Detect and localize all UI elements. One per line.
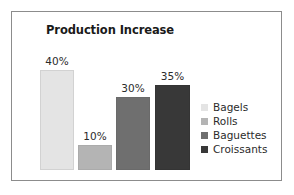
legend-item-baguettes[interactable]: Baguettes — [201, 128, 281, 142]
legend-swatch-baguettes — [201, 132, 208, 139]
bar-bagels[interactable] — [40, 70, 74, 170]
legend-item-rolls[interactable]: Rolls — [201, 114, 281, 128]
bar-value-label-baguettes: 30% — [116, 82, 150, 94]
bar-value-label-croissants: 35% — [155, 70, 190, 82]
legend-item-bagels[interactable]: Bagels — [201, 100, 281, 114]
chart-figure: Production Increase 40% 10% 30% 35% Bage… — [0, 0, 294, 195]
bar-croissants[interactable] — [155, 85, 190, 170]
legend-label-baguettes: Baguettes — [213, 129, 267, 141]
chart-legend: Bagels Rolls Baguettes Croissants — [201, 100, 281, 156]
bar-baguettes[interactable] — [116, 97, 150, 170]
legend-label-croissants: Croissants — [213, 143, 267, 155]
plot-area: 40% 10% 30% 35% — [0, 0, 294, 195]
bar-value-label-bagels: 40% — [40, 55, 74, 67]
bar-value-label-rolls: 10% — [78, 130, 112, 142]
legend-swatch-rolls — [201, 118, 208, 125]
legend-label-rolls: Rolls — [213, 115, 238, 127]
bar-rolls[interactable] — [78, 145, 112, 170]
legend-item-croissants[interactable]: Croissants — [201, 142, 281, 156]
legend-swatch-bagels — [201, 104, 208, 111]
legend-swatch-croissants — [201, 146, 208, 153]
legend-label-bagels: Bagels — [213, 101, 248, 113]
